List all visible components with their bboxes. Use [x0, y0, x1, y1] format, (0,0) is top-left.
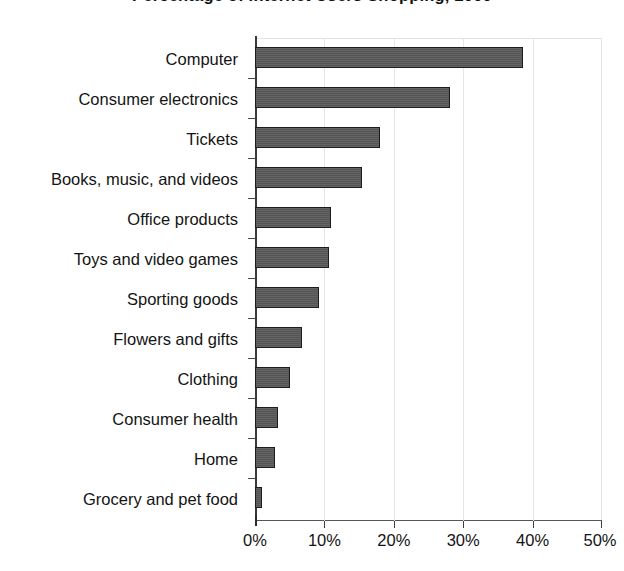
- y-axis-tick: [248, 198, 255, 199]
- bar-computer: [255, 47, 523, 68]
- category-label: Tickets: [186, 130, 238, 149]
- bar-toys-video-games: [255, 247, 329, 268]
- x-axis-tick: [324, 521, 325, 528]
- x-tick-label: 30%: [447, 531, 480, 550]
- category-label: Office products: [127, 210, 238, 229]
- x-tick-label: 10%: [308, 531, 341, 550]
- bar-consumer-health: [255, 407, 278, 428]
- bar-sporting-goods: [255, 287, 319, 308]
- category-label: Flowers and gifts: [113, 330, 238, 349]
- y-axis-tick: [248, 278, 255, 279]
- category-label: Consumer electronics: [78, 90, 238, 109]
- y-axis-tick: [248, 118, 255, 119]
- x-axis-tick-labels: 0% 10% 20% 30% 40% 50%: [0, 531, 624, 559]
- x-tick-label: 50%: [583, 531, 616, 550]
- category-label: Clothing: [177, 370, 238, 389]
- bar-grocery-pet-food: [255, 487, 262, 508]
- bar-consumer-electronics: [255, 87, 450, 108]
- x-tick-label: 40%: [516, 531, 549, 550]
- x-axis-tick: [601, 521, 602, 528]
- category-label: Consumer health: [112, 410, 238, 429]
- x-tick-label: 0%: [243, 531, 267, 550]
- category-label: Toys and video games: [74, 250, 238, 269]
- y-axis-tick: [248, 358, 255, 359]
- bar-office-products: [255, 207, 331, 228]
- y-axis-tick: [248, 398, 255, 399]
- category-label: Home: [194, 450, 238, 469]
- x-axis-tick: [463, 521, 464, 528]
- chart-figure: Percentage of Internet Users Shopping, 2…: [0, 0, 624, 571]
- x-tick-label: 20%: [377, 531, 410, 550]
- x-axis-tick: [533, 521, 534, 528]
- bar-tickets: [255, 127, 380, 148]
- y-axis-tick: [248, 478, 255, 479]
- chart-title: Percentage of Internet Users Shopping, 2…: [0, 0, 624, 6]
- category-axis-labels: Computer Consumer electronics Tickets Bo…: [0, 38, 247, 521]
- bar-home: [255, 447, 275, 468]
- y-axis-tick: [248, 158, 255, 159]
- bar-clothing: [255, 367, 290, 388]
- bar-books-music-videos: [255, 167, 362, 188]
- category-label: Computer: [166, 50, 238, 69]
- plot-area: [255, 38, 602, 521]
- x-axis-tick: [394, 521, 395, 528]
- category-label: Sporting goods: [127, 290, 238, 309]
- y-axis-tick: [248, 78, 255, 79]
- category-label: Grocery and pet food: [83, 490, 238, 509]
- y-axis-tick: [248, 318, 255, 319]
- y-axis-tick: [248, 438, 255, 439]
- y-axis-tick: [248, 238, 255, 239]
- bar-flowers-gifts: [255, 327, 302, 348]
- category-label: Books, music, and videos: [51, 170, 238, 189]
- bar-series: [255, 38, 602, 521]
